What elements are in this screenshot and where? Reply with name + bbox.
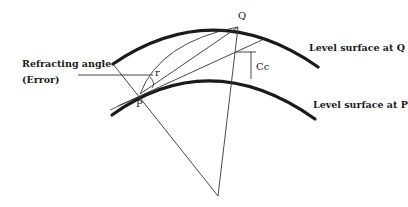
cc-label: Cc: [256, 62, 269, 72]
diagram-canvas: Refracting angle (Error) r P Q Cc Level …: [0, 0, 408, 207]
level-surface-q-label: Level surface at Q: [309, 43, 405, 53]
refracting-angle-label: Refracting angle: [22, 59, 111, 69]
point-p-label: P: [136, 99, 143, 109]
angle-r-label: r: [155, 68, 160, 78]
level-surface-p-label: Level surface at P: [313, 100, 408, 110]
refracting-angle-error-label: (Error): [22, 75, 60, 85]
point-q-label: Q: [238, 11, 246, 21]
